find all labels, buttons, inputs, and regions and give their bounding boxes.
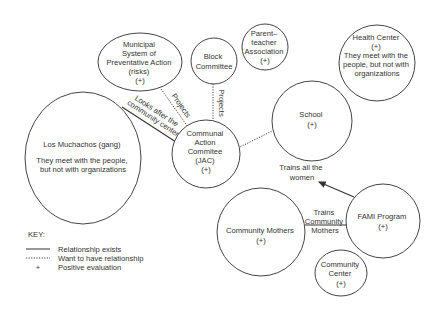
edge-fami-school: Trains all the women	[279, 163, 354, 197]
edge-fami-mothers: Trains Community Mothers	[305, 208, 347, 235]
edge-label: Projects	[217, 89, 226, 117]
node-los-muchachos: Los Muchachos (gang) They meet with the …	[25, 92, 141, 224]
legend: KEY: Relationship exists Want to have re…	[26, 230, 143, 272]
node-community-mothers: Community Mothers (+)	[217, 188, 305, 276]
edge-block-jac: Projects	[213, 84, 226, 121]
node-block-committee: Block Committee	[191, 38, 237, 84]
legend-label: Relationship exists	[58, 245, 122, 254]
edge-jac-school	[238, 131, 272, 148]
edge-label: Trains Community Mothers	[305, 208, 346, 235]
node-fami-program: FAMI Program (+)	[346, 184, 420, 258]
plus-symbol: +	[36, 263, 41, 272]
node-parent-teacher: Parent– teacher Association (+)	[242, 24, 288, 70]
node-jac: Communal Action Commitee (JAC) (+)	[172, 120, 240, 188]
legend-label: Want to have relationship	[58, 254, 143, 263]
node-municipal: Municipal System of Preventative Action …	[98, 33, 182, 91]
node-label: Los Muchachos (gang) They meet with the …	[36, 140, 129, 174]
arrow-line	[319, 182, 354, 197]
node-health-center: Health Center (+) They meet with the peo…	[339, 25, 415, 101]
stakeholder-diagram: Looks after the community center Project…	[0, 0, 443, 310]
node-community-center: Community Center (+)	[315, 250, 367, 296]
node-school: School (+)	[272, 81, 352, 161]
legend-label: Positive evaluation	[58, 263, 121, 272]
edge-label: Trains all the women	[279, 163, 324, 182]
desired-relationship-line	[238, 131, 272, 148]
legend-title: KEY:	[28, 230, 45, 239]
